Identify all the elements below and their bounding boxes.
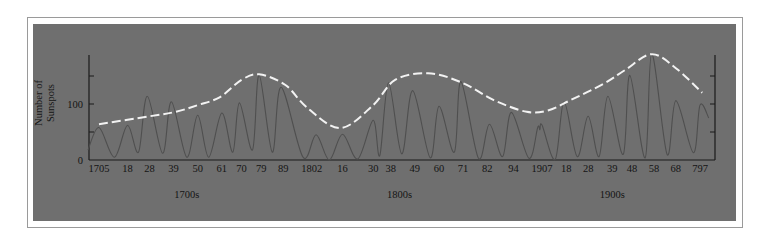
x-tick-label: 82: [482, 163, 493, 174]
century-label: 1900s: [600, 189, 625, 200]
x-tick-label: 50: [192, 163, 203, 174]
x-tick-label: 16: [337, 163, 348, 174]
x-tick-label: 89: [278, 163, 289, 174]
x-tick-label: 28: [144, 163, 155, 174]
y-tick-label: 0: [78, 155, 83, 166]
sunspot-chart: Number of Sunspots 0100 1705182839506170…: [0, 0, 766, 244]
x-tick-label: 1802: [301, 163, 322, 174]
x-tick-label: 39: [168, 163, 179, 174]
x-tick-label: 70: [236, 163, 247, 174]
x-tick-label: 60: [434, 163, 445, 174]
century-label: 1800s: [387, 189, 412, 200]
x-tick-label: 71: [458, 163, 469, 174]
x-tick-label: 49: [410, 163, 421, 174]
x-tick-label: 58: [649, 163, 660, 174]
y-axis-title: Number of Sunspots: [33, 80, 56, 126]
y-axis-title-line-2: Sunspots: [45, 84, 56, 122]
x-tick-label: 1705: [89, 163, 110, 174]
x-tick-label: 68: [671, 163, 682, 174]
x-tick-label: 18: [561, 163, 572, 174]
x-tick-label: 94: [508, 163, 519, 174]
x-tick-label: 39: [607, 163, 618, 174]
y-tick-label: 100: [67, 99, 83, 110]
chart-panel: [33, 24, 736, 221]
x-tick-label: 18: [122, 163, 133, 174]
century-label: 1700s: [174, 189, 199, 200]
x-tick-label: 30: [368, 163, 379, 174]
x-tick-label: 28: [583, 163, 594, 174]
x-tick-label: 61: [217, 163, 228, 174]
x-tick-label: 38: [385, 163, 396, 174]
x-tick-label: 1907: [532, 163, 553, 174]
x-tick-label: 79: [256, 163, 267, 174]
x-tick-label: 797: [692, 163, 708, 174]
y-axis-title-line-1: Number of: [33, 80, 44, 126]
x-tick-label: 48: [627, 163, 638, 174]
